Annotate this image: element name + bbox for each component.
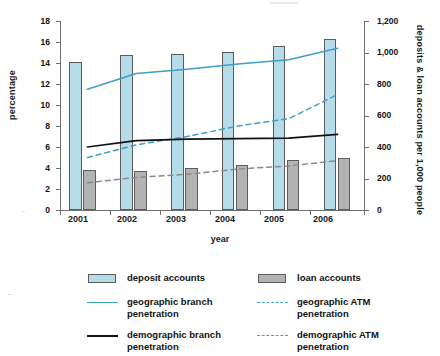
legend-item-loan-accounts[interactable]: loan accounts xyxy=(256,272,431,285)
y-right-tick-600: 600 xyxy=(377,111,391,120)
legend-item-demographic-atm[interactable]: demographic ATM penetration xyxy=(256,329,431,353)
legend-key-solid-black-line xyxy=(86,330,120,341)
y-left-tick-14: 14 xyxy=(24,59,50,68)
legend-key-deposit-swatch xyxy=(86,273,120,284)
y-left-tick-2: 2 xyxy=(24,185,50,194)
legend-item-deposit-accounts[interactable]: deposit accounts xyxy=(86,272,256,285)
legend-key-dashed-gray-line xyxy=(256,330,290,341)
legend-label-demographic-branch: demographic branch penetration xyxy=(127,329,249,353)
y-right-tickmark-600 xyxy=(365,116,369,117)
y-right-tick-0: 0 xyxy=(377,206,382,215)
x-tick-2004: 2004 xyxy=(205,215,245,224)
x-axis-title: year xyxy=(0,234,440,244)
y-right-tickmark-800 xyxy=(365,84,369,85)
x-tick-2001: 2001 xyxy=(58,215,98,224)
y-right-tick-400: 400 xyxy=(377,143,391,152)
legend-label-geographic-atm: geographic ATM penetration xyxy=(297,296,422,320)
x-tick-2006: 2006 xyxy=(303,215,343,224)
y-left-tick-0: 0 xyxy=(24,206,50,215)
x-tick-2005: 2005 xyxy=(254,215,294,224)
legend-item-geographic-atm[interactable]: geographic ATM penetration xyxy=(256,296,431,320)
legend-label-demographic-atm: demographic ATM penetration xyxy=(297,329,422,353)
legend-label-deposit-accounts: deposit accounts xyxy=(127,272,205,284)
y-right-tickmark-1000 xyxy=(365,53,369,54)
y-right-tickmark-0 xyxy=(365,210,369,211)
y-left-tick-10: 10 xyxy=(24,101,50,110)
scan-artifact-3 xyxy=(270,2,298,4)
scan-artifact-1 xyxy=(8,294,12,295)
scan-artifact-2 xyxy=(22,211,25,212)
y-axis-right-title-wrap: deposits & loan accounts per 1,000 peopl… xyxy=(420,120,434,134)
y-left-tick-18: 18 xyxy=(24,17,50,26)
y-right-tickmark-400 xyxy=(365,147,369,148)
y-axis-left-title: percentage xyxy=(7,70,17,120)
legend-key-solid-blue-line xyxy=(86,297,120,308)
series-line-demographic-branch-penetration xyxy=(87,134,337,147)
legend-key-dashed-blue-line xyxy=(256,297,290,308)
y-right-tick-800: 800 xyxy=(377,80,391,89)
y-right-tickmark-1200 xyxy=(365,21,369,22)
legend-label-loan-accounts: loan accounts xyxy=(297,272,361,284)
legend-key-loan-swatch xyxy=(256,273,290,284)
y-axis-right-title: deposits & loan accounts per 1,000 peopl… xyxy=(415,25,425,215)
y-left-tick-12: 12 xyxy=(24,80,50,89)
series-line-geographic-ATM-penetration xyxy=(87,95,337,158)
y-left-tick-4: 4 xyxy=(24,164,50,173)
legend-item-demographic-branch[interactable]: demographic branch penetration xyxy=(86,329,256,353)
series-line-geographic-branch-penetration xyxy=(87,48,337,89)
line-series-layer xyxy=(60,21,365,211)
chart-legend: deposit accounts geographic branch penet… xyxy=(86,272,431,350)
x-tick-2002: 2002 xyxy=(107,215,147,224)
y-left-tick-8: 8 xyxy=(24,122,50,131)
y-right-tick-1200: 1,200 xyxy=(377,17,398,26)
y-left-tick-6: 6 xyxy=(24,143,50,152)
y-right-tickmark-200 xyxy=(365,179,369,180)
legend-column-right: loan accounts geographic ATM penetration… xyxy=(256,272,431,356)
series-line-demographic-ATM-penetration xyxy=(87,161,337,183)
legend-column-left: deposit accounts geographic branch penet… xyxy=(86,272,256,356)
y-left-tick-16: 16 xyxy=(24,38,50,47)
plot-area xyxy=(60,21,365,210)
legend-item-geographic-branch[interactable]: geographic branch penetration xyxy=(86,296,256,320)
y-right-tick-200: 200 xyxy=(377,174,391,183)
legend-label-geographic-branch: geographic branch penetration xyxy=(127,296,249,320)
y-right-tick-1000: 1,000 xyxy=(377,48,398,57)
x-tick-2003: 2003 xyxy=(156,215,196,224)
